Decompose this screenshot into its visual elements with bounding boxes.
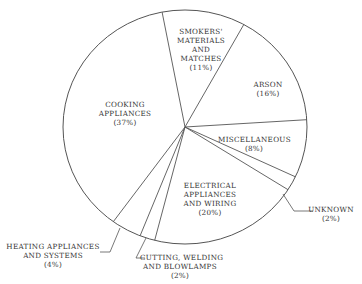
label-text: APPLIANCES — [180, 190, 240, 199]
label-text: HEATING APPLIANCES — [3, 242, 103, 251]
label-percent: (8%) — [218, 144, 290, 153]
label-percent: (16%) — [248, 89, 288, 98]
slice-boundary — [140, 127, 185, 236]
label-text: AND BLOWLAMPS — [140, 262, 220, 271]
label-electrical: ELECTRICAL APPLIANCES AND WIRING (20%) — [180, 181, 240, 217]
label-cooking: COOKING APPLIANCES (37%) — [95, 100, 155, 127]
label-text: MATCHES — [176, 54, 226, 63]
label-percent: (2%) — [140, 271, 220, 280]
label-text: MISCELLANEOUS — [218, 135, 290, 144]
label-text: SMOKERS' — [176, 27, 226, 36]
slice-boundary — [113, 127, 185, 222]
label-smokers: SMOKERS' MATERIALS AND MATCHES (11%) — [176, 27, 226, 72]
label-cutting: CUTTING, WELDING AND BLOWLAMPS (2%) — [140, 253, 220, 280]
label-text: CUTTING, WELDING — [140, 253, 220, 262]
slice-boundary — [185, 120, 307, 127]
label-percent: (37%) — [95, 118, 155, 127]
label-percent: (11%) — [176, 63, 226, 72]
label-percent: (4%) — [3, 260, 103, 269]
label-text: APPLIANCES — [95, 109, 155, 118]
label-heating: HEATING APPLIANCES AND SYSTEMS (4%) — [3, 242, 103, 269]
label-text: AND SYSTEMS — [3, 251, 103, 260]
label-text: UNKNOWN — [306, 205, 356, 214]
label-text: AND WIRING — [180, 199, 240, 208]
label-misc: MISCELLANEOUS (8%) — [218, 135, 290, 153]
label-text: ARSON — [248, 80, 288, 89]
label-arson: ARSON (16%) — [248, 80, 288, 98]
leader-heating — [100, 228, 120, 252]
label-text: COOKING — [95, 100, 155, 109]
label-text: AND — [176, 45, 226, 54]
label-percent: (20%) — [180, 208, 240, 217]
label-percent: (2%) — [306, 214, 356, 223]
label-text: MATERIALS — [176, 36, 226, 45]
label-text: ELECTRICAL — [180, 181, 240, 190]
label-unknown: UNKNOWN (2%) — [306, 205, 356, 223]
